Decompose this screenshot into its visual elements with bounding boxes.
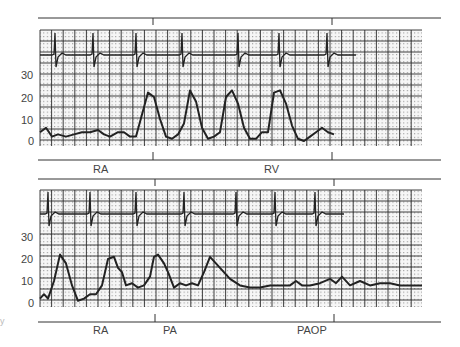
top-label-rv: RV <box>264 163 280 175</box>
bottom-ytick-0: 0 <box>28 297 34 309</box>
top-ytick-0: 0 <box>28 135 34 147</box>
bottom-ytick-30: 30 <box>21 231 33 243</box>
top-panel: 30 20 10 0 RA RV <box>21 18 441 175</box>
bottom-label-paop: PAOP <box>297 324 327 336</box>
top-ytick-30: 30 <box>21 69 33 81</box>
bottom-panel: 30 20 10 0 y RA PA PAOP <box>0 179 441 336</box>
bottom-ytick-10: 10 <box>21 275 33 287</box>
top-ytick-20: 20 <box>21 92 33 104</box>
top-label-ra: RA <box>93 163 109 175</box>
top-ytick-10: 10 <box>21 114 33 126</box>
stray-mark: y <box>0 316 5 326</box>
bottom-label-ra: RA <box>93 324 109 336</box>
bottom-ytick-20: 20 <box>21 253 33 265</box>
hemodynamic-waveform-figure: 30 20 10 0 RA RV 30 20 10 0 y <box>0 0 460 347</box>
waveform-svg: 30 20 10 0 RA RV 30 20 10 0 y <box>0 0 460 347</box>
bottom-label-pa: PA <box>163 324 178 336</box>
